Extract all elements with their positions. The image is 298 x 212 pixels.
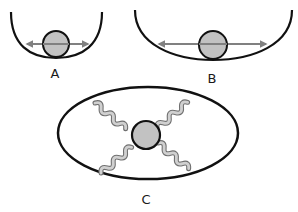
panel-c bbox=[58, 87, 238, 179]
panel-a bbox=[11, 12, 102, 58]
spring-lower-right bbox=[156, 141, 190, 171]
label-c: C bbox=[141, 193, 150, 206]
panel-b bbox=[135, 10, 292, 60]
diagram-canvas bbox=[0, 0, 298, 212]
spring-lower-left bbox=[99, 145, 133, 175]
spring-upper-right bbox=[155, 100, 189, 130]
label-b: B bbox=[208, 72, 217, 85]
spring-upper-left bbox=[93, 101, 127, 131]
ball-c bbox=[132, 121, 160, 149]
label-a: A bbox=[51, 67, 60, 80]
